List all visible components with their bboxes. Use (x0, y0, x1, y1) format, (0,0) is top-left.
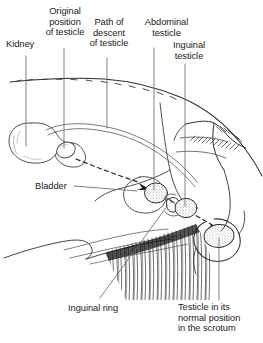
inguinal-testicle (175, 198, 197, 217)
label-inguinal-ring: Inguinal ring (68, 303, 118, 314)
label-bladder: Bladder (35, 181, 67, 192)
abdominal-testicle (145, 183, 168, 203)
rump-hair-hatching (190, 126, 242, 150)
label-kidney: Kidney (6, 39, 34, 50)
label-inguinal-testicle: Inguinal testicle (163, 40, 215, 61)
original-testicle-position (54, 139, 77, 160)
label-abdominal-testicle: Abdominal testicle (135, 17, 198, 38)
label-path-of-descent: Path of descent of testicle (83, 17, 135, 49)
ventral-fold-outline (4, 229, 188, 264)
anatomy-diagram (0, 0, 263, 343)
label-scrotal-testicle: Testicle in its normal position in the s… (178, 302, 262, 334)
figure-canvas: Kidney Original position of testicle Pat… (0, 0, 263, 343)
